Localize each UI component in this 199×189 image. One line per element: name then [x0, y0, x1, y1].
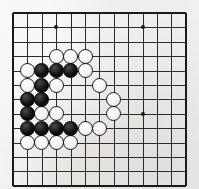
black-stone[interactable]	[34, 92, 49, 107]
white-stone[interactable]	[34, 106, 49, 121]
black-stone[interactable]	[34, 121, 49, 136]
white-stone[interactable]	[34, 135, 49, 150]
black-stone[interactable]	[34, 63, 49, 78]
white-stone[interactable]	[106, 92, 121, 107]
black-stone[interactable]	[34, 78, 49, 93]
white-stone[interactable]	[20, 63, 35, 78]
white-stone[interactable]	[106, 106, 121, 121]
black-stone[interactable]	[49, 121, 64, 136]
white-stone[interactable]	[49, 135, 64, 150]
white-stone[interactable]	[49, 106, 64, 121]
white-stone[interactable]	[78, 121, 93, 136]
black-stone[interactable]	[63, 63, 78, 78]
stones-layer	[0, 0, 199, 189]
white-stone[interactable]	[92, 121, 107, 136]
black-stone[interactable]	[20, 106, 35, 121]
white-stone[interactable]	[49, 78, 64, 93]
white-stone[interactable]	[20, 135, 35, 150]
black-stone[interactable]	[20, 92, 35, 107]
white-stone[interactable]	[63, 135, 78, 150]
white-stone[interactable]	[49, 49, 64, 64]
white-stone[interactable]	[63, 49, 78, 64]
white-stone[interactable]	[78, 63, 93, 78]
black-stone[interactable]	[20, 121, 35, 136]
white-stone[interactable]	[20, 78, 35, 93]
go-board[interactable]	[0, 0, 199, 189]
black-stone[interactable]	[49, 63, 64, 78]
black-stone[interactable]	[63, 121, 78, 136]
white-stone[interactable]	[92, 78, 107, 93]
white-stone[interactable]	[78, 49, 93, 64]
